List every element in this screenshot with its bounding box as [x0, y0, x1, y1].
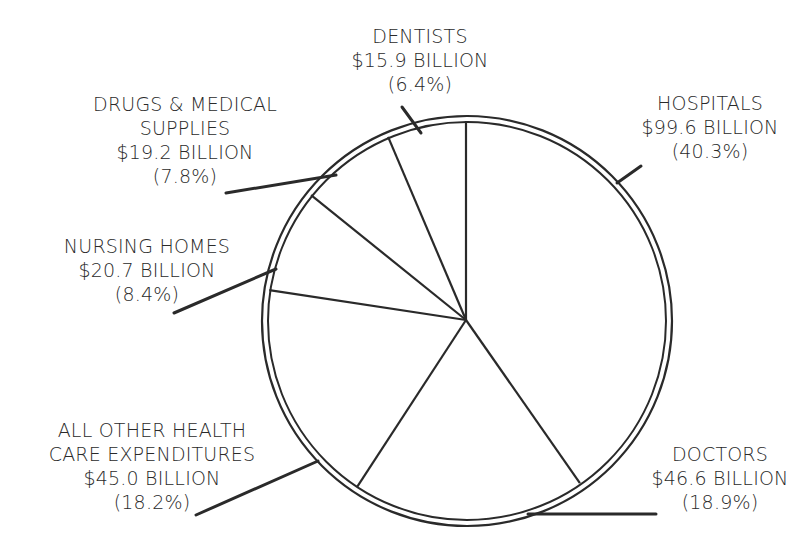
slice-boundary	[466, 320, 580, 483]
slice-boundary	[269, 290, 466, 320]
pie-slices	[269, 121, 580, 487]
label-all-other: ALL OTHER HEALTH CARE EXPENDITURES $45.0…	[22, 418, 282, 514]
label-doctors: DOCTORS $46.6 BILLION (18.9%)	[630, 442, 810, 514]
label-nursing: NURSING HOMES $20.7 BILLION (8.4%)	[22, 234, 272, 306]
slice-boundary	[311, 195, 466, 320]
leader-hospitals	[617, 166, 641, 183]
slice-boundary	[357, 320, 466, 487]
label-hospitals: HOSPITALS $99.6 BILLION (40.3%)	[620, 91, 800, 163]
slice-boundary	[388, 137, 466, 320]
label-dentists: DENTISTS $15.9 BILLION (6.4%)	[300, 24, 540, 96]
label-drugs: DRUGS & MEDICAL SUPPLIES $19.2 BILLION (…	[60, 92, 310, 188]
